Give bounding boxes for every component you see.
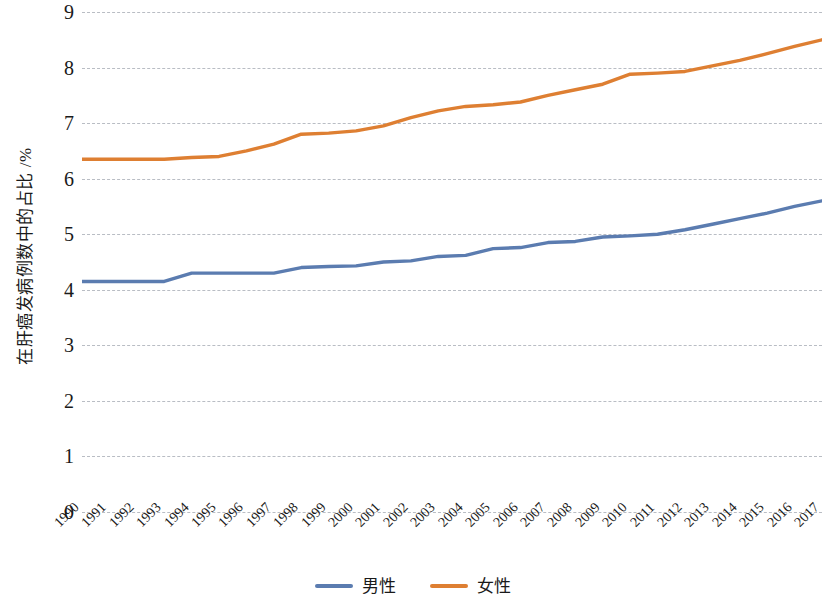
y-axis-tick-label: 4: [34, 280, 74, 300]
y-axis-tick-label: 5: [34, 224, 74, 244]
x-axis-tick-labels: 1990199119921993199419951996199719981999…: [82, 514, 822, 572]
series-line-female: [82, 40, 822, 159]
y-axis-tick-label: 9: [34, 2, 74, 22]
legend-item-male[interactable]: 男性: [315, 578, 396, 595]
series-line-male: [82, 201, 822, 282]
plot-area: [82, 12, 822, 512]
y-axis-tick-label: 7: [34, 113, 74, 133]
chart-legend: 男性女性: [0, 572, 826, 600]
legend-swatch-icon: [315, 584, 353, 588]
legend-label: 男性: [362, 578, 396, 595]
y-axis-tick-label: 2: [34, 391, 74, 411]
y-axis-tick-label: 3: [34, 335, 74, 355]
y-axis-tick-labels: 9876543210: [26, 12, 74, 512]
legend-item-female[interactable]: 女性: [430, 578, 511, 595]
y-axis-tick-label: 6: [34, 169, 74, 189]
legend-swatch-icon: [430, 584, 468, 588]
legend-label: 女性: [477, 578, 511, 595]
y-axis-tick-label: 1: [34, 446, 74, 466]
series-layer: [82, 12, 822, 512]
y-axis-tick-label: 8: [34, 58, 74, 78]
line-chart: 在肝癌发病例数中的占比 /% 9876543210 19901991199219…: [0, 0, 826, 603]
